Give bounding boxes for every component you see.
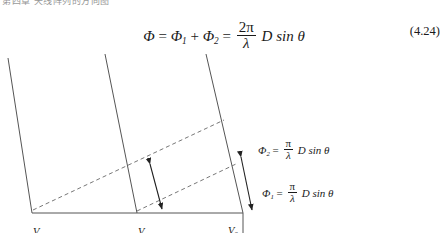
element-label-v2: V2 — [138, 226, 148, 233]
annotation-phi2-fraction: π λ — [284, 138, 294, 162]
equation-term-1-subscript: 1 — [182, 36, 187, 46]
path-difference-arrow-right — [241, 157, 252, 210]
path-difference-arrow-center — [150, 164, 162, 209]
element-label-v3-subscript: 3 — [234, 230, 237, 233]
annotation-phi2-denominator: λ — [284, 149, 294, 162]
annotation-phi2-subscript: 2 — [266, 150, 269, 157]
element-label-v3: V3 — [228, 225, 238, 233]
element-label-v2-subscript: 2 — [144, 231, 147, 233]
equation-fraction: 2π λ — [237, 20, 256, 52]
equation-fraction-denominator: λ — [237, 35, 256, 52]
element-line-v3 — [206, 54, 243, 213]
annotation-phi2-equals: = — [273, 144, 279, 156]
annotation-phi1-subscript: 1 — [270, 193, 273, 200]
equation-lhs: Φ — [143, 28, 154, 44]
equation-tail: D sin θ — [262, 28, 305, 44]
equation-term-2-subscript: 2 — [214, 36, 219, 46]
equation-equals-1: = — [158, 28, 166, 44]
annotation-phi2-tail: D sin θ — [298, 144, 330, 156]
equation-body: Φ = Φ1 + Φ2 = 2π λ D sin θ — [143, 20, 305, 52]
element-line-v1 — [8, 58, 32, 213]
equation-fraction-numerator: 2π — [237, 20, 256, 35]
annotation-phi1: Φ1 = π λ D sin θ — [262, 181, 334, 205]
element-label-v1-subscript: 1 — [39, 231, 42, 233]
equation-term-2: Φ — [203, 28, 214, 44]
figure-page: 第四章 天线阵列的方向图 Φ = Φ1 + Φ2 = 2π λ D sin θ … — [0, 0, 448, 233]
annotation-phi1-denominator: λ — [288, 192, 298, 205]
element-label-v1: V1 — [33, 226, 43, 233]
annotation-phi1-tail: D sin θ — [302, 187, 334, 199]
annotation-phi2: Φ2 = π λ D sin θ — [258, 138, 330, 162]
equation-plus: + — [190, 28, 198, 44]
page-header-fragment: 第四章 天线阵列的方向图 — [2, 0, 132, 6]
element-line-v2 — [105, 54, 137, 213]
figure-canvas — [0, 52, 448, 233]
array-geometry-figure: Φ2 = π λ D sin θ Φ1 = π λ D sin θ V1 V2 — [0, 52, 448, 233]
equation-term-1: Φ — [171, 28, 182, 44]
annotation-phi1-fraction: π λ — [288, 181, 298, 205]
annotation-phi1-equals: = — [277, 187, 283, 199]
wavefront-dashed-upper — [33, 120, 224, 210]
annotation-phi1-numerator: π — [288, 181, 298, 192]
equation-equals-2: = — [223, 28, 231, 44]
display-equation: Φ = Φ1 + Φ2 = 2π λ D sin θ — [0, 20, 448, 52]
equation-number: (4.24) — [410, 24, 440, 39]
annotation-phi2-numerator: π — [284, 138, 294, 149]
